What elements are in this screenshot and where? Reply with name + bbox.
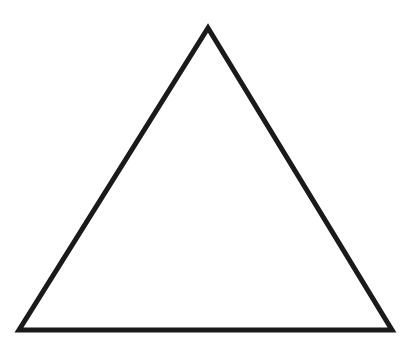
triangle-svg [0, 0, 411, 349]
triangle-shape [19, 28, 392, 330]
diagram-canvas [0, 0, 411, 349]
